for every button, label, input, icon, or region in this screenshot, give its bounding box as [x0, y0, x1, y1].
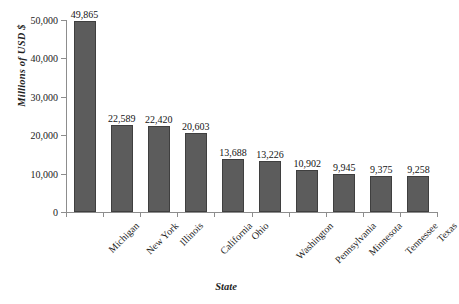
bar: 9,945: [333, 174, 355, 212]
bar-value-label: 9,945: [333, 162, 356, 173]
x-tick: [289, 212, 290, 217]
bar-value-label: 13,688: [219, 147, 247, 158]
x-tick-label: Pennsylvania: [333, 220, 378, 265]
x-tick-label: Tennessee: [403, 220, 440, 257]
bar-value-label: 9,375: [370, 164, 393, 175]
y-tick-label: 50,000: [31, 15, 59, 26]
x-tick: [326, 212, 327, 217]
bar-value-label: 9,258: [407, 164, 430, 175]
x-tick-label: Washington: [294, 220, 335, 261]
x-tick: [400, 212, 401, 217]
bar: 13,226: [259, 161, 281, 212]
x-tick: [103, 212, 104, 217]
bar-value-label: 49,865: [71, 9, 99, 20]
y-axis-line: [66, 20, 67, 212]
bar-value-label: 22,420: [145, 114, 173, 125]
y-tick: [61, 97, 66, 98]
y-tick: [61, 135, 66, 136]
x-tick-label: New York: [144, 220, 180, 256]
x-tick: [177, 212, 178, 217]
x-tick: [252, 212, 253, 217]
bar-value-label: 20,603: [182, 121, 210, 132]
x-axis-title: State: [0, 281, 452, 292]
bar-value-label: 13,226: [256, 149, 284, 160]
x-tick-label: Michigan: [106, 220, 141, 255]
x-tick: [214, 212, 215, 217]
y-tick: [61, 174, 66, 175]
y-axis-title: Millions of USD $: [16, 0, 27, 141]
plot-area: 010,00020,00030,00040,00050,00049,865Mic…: [66, 20, 437, 212]
x-tick: [140, 212, 141, 217]
y-tick: [61, 58, 66, 59]
x-tick: [437, 212, 438, 217]
y-tick-label: 40,000: [31, 53, 59, 64]
bar: 13,688: [222, 159, 244, 212]
x-tick-label: California: [218, 220, 254, 256]
x-tick-label: Illinois: [177, 220, 205, 248]
x-tick: [66, 212, 67, 217]
y-tick-label: 30,000: [31, 91, 59, 102]
bar-value-label: 10,902: [293, 158, 321, 169]
x-tick-label: Ohio: [249, 220, 271, 242]
bar: 20,603: [185, 133, 207, 212]
bar: 49,865: [74, 21, 96, 212]
bar: 9,258: [407, 176, 429, 212]
y-tick-label: 10,000: [31, 168, 59, 179]
bar: 22,589: [111, 125, 133, 212]
bar: 9,375: [370, 176, 392, 212]
y-tick-label: 0: [53, 207, 58, 218]
y-tick: [61, 20, 66, 21]
x-tick-label: Texas: [435, 220, 459, 244]
y-tick-label: 20,000: [31, 130, 59, 141]
bar: 10,902: [296, 170, 318, 212]
bar-value-label: 22,589: [108, 113, 136, 124]
x-tick: [363, 212, 364, 217]
bar: 22,420: [148, 126, 170, 212]
